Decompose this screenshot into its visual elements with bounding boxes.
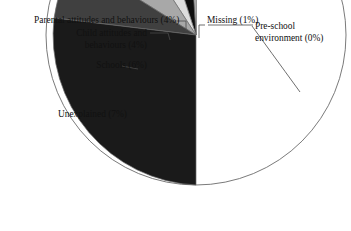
pie-label-child-attitudes-line2: behaviours (4%) [22,40,147,52]
pie-label-schools: Schools (6%) [22,60,147,72]
pie-label-parental-attitudes: Parental attitudes and behaviours (4%) [34,15,179,27]
pie-label-unexplained: Unexplained (7%) [2,109,127,121]
pie-label-preschool-line2: environment (0%) [255,33,347,45]
pie-label-missing: Missing (1%) [207,15,258,27]
chart-canvas: (controlling for prior ability) [0,0,351,231]
pie-label-child-attitudes: Child attitudes and behaviours (4%) [22,28,147,51]
pie-label-preschool-line1: Pre-school [255,21,347,33]
pie-label-preschool-environment: Pre-school environment (0%) [255,21,347,44]
pie-label-child-attitudes-line1: Child attitudes and [22,28,147,40]
